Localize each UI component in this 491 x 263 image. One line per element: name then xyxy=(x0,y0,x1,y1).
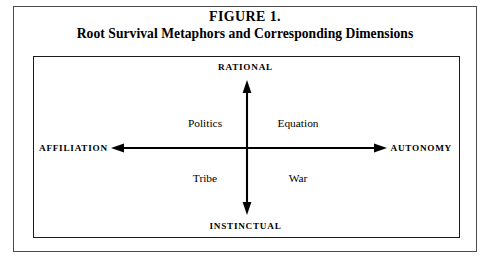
quadrant-label-bottom-right: War xyxy=(258,172,338,185)
figure-subtitle: Root Survival Metaphors and Correspondin… xyxy=(13,25,477,42)
axis-label-instinctual: INSTINCTUAL xyxy=(0,221,491,232)
axis-label-autonomy: AUTONOMY xyxy=(391,143,452,154)
figure-root: FIGURE 1. Root Survival Metaphors and Co… xyxy=(0,0,491,263)
quadrant-label-bottom-left: Tribe xyxy=(170,172,240,185)
quadrant-label-top-right: Equation xyxy=(258,117,338,130)
quadrant-label-top-left: Politics xyxy=(170,117,240,130)
figure-caption: FIGURE 1. Root Survival Metaphors and Co… xyxy=(13,8,477,42)
axis-label-rational: RATIONAL xyxy=(0,62,491,73)
figure-number-label: FIGURE 1. xyxy=(13,8,477,25)
axis-label-affiliation: AFFILIATION xyxy=(39,143,108,154)
